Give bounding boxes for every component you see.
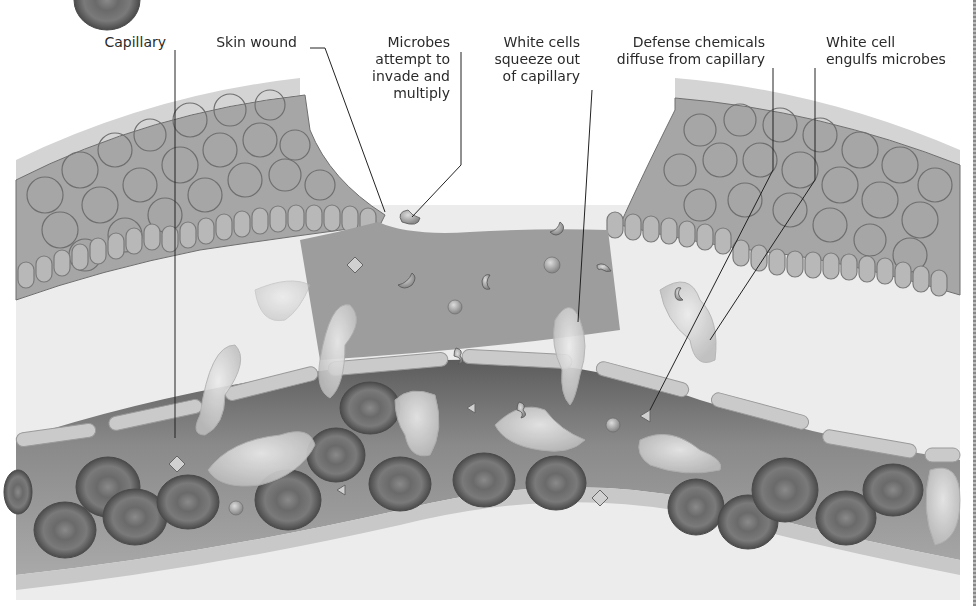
label-line: attempt to — [340, 51, 450, 68]
label-line: White cells — [470, 34, 580, 51]
label-line: Microbes — [340, 34, 450, 51]
label-line: of capillary — [470, 68, 580, 85]
label-line: Capillary — [86, 34, 166, 51]
label-line: engulfs microbes — [826, 51, 976, 68]
label-microbes: Microbes attempt to invade and multiply — [340, 34, 450, 102]
label-capillary: Capillary — [86, 34, 166, 51]
inflammation-diagram: Capillary Skin wound Microbes attempt to… — [0, 0, 976, 606]
label-line: White cell — [826, 34, 976, 51]
label-line: Skin wound — [195, 34, 297, 51]
label-white-cells-squeeze: White cells squeeze out of capillary — [470, 34, 580, 85]
diagram-illustration — [0, 0, 976, 606]
label-white-cell-engulfs: White cell engulfs microbes — [826, 34, 976, 68]
label-defense-chemicals: Defense chemicals diffuse from capillary — [590, 34, 765, 68]
label-line: multiply — [340, 85, 450, 102]
label-line: squeeze out — [470, 51, 580, 68]
label-line: diffuse from capillary — [590, 51, 765, 68]
label-line: invade and — [340, 68, 450, 85]
label-line: Defense chemicals — [590, 34, 765, 51]
label-skin-wound: Skin wound — [195, 34, 297, 51]
